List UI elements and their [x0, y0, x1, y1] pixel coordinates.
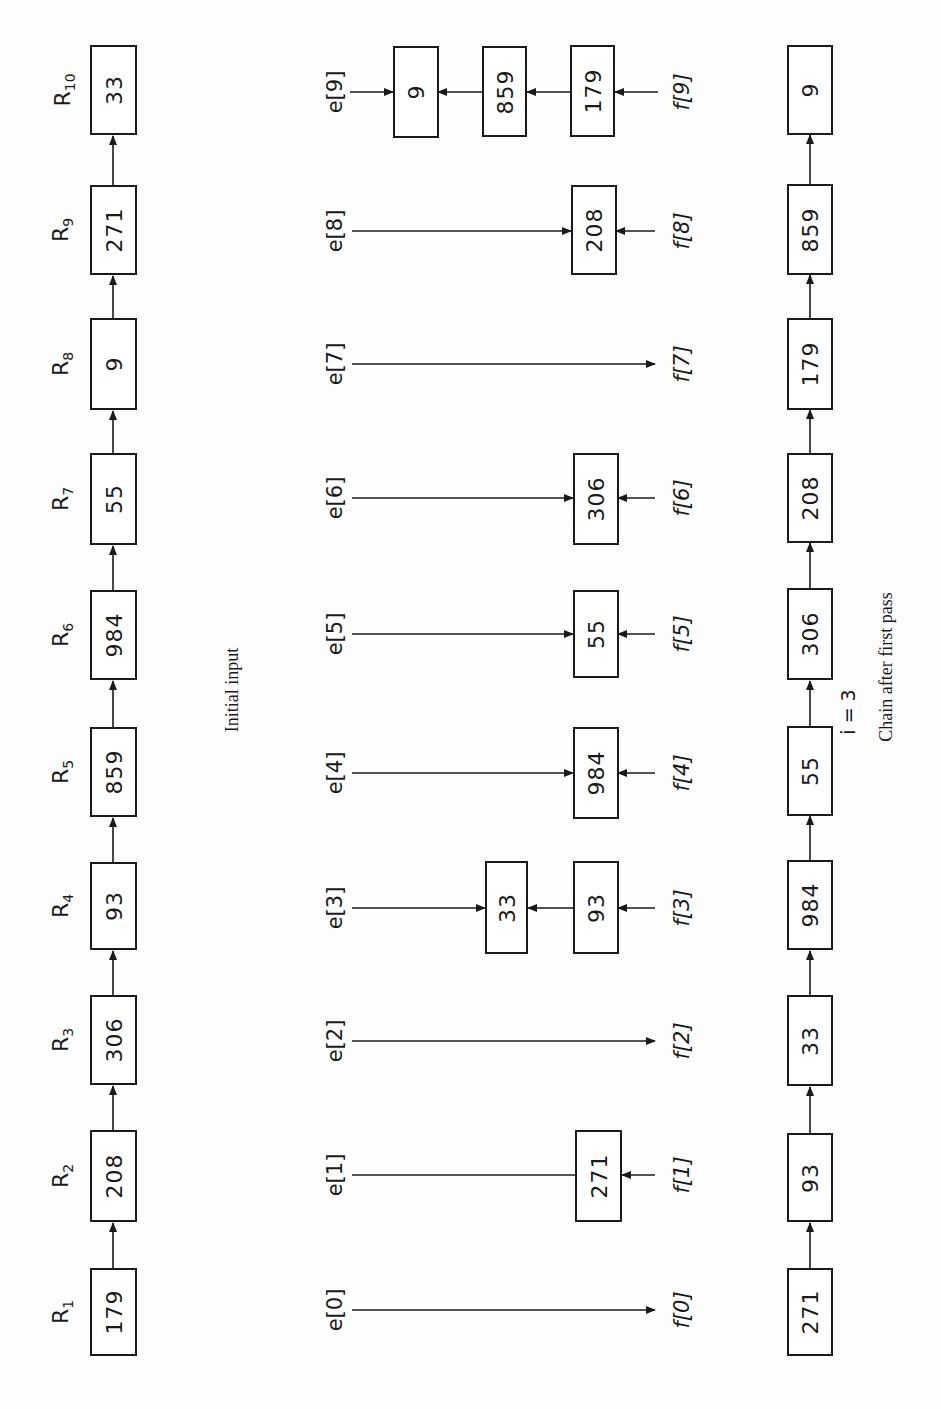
record-value: 306: [101, 1018, 126, 1063]
record-box-r4: 93: [90, 862, 137, 950]
bucket-front-label-8: e[8]: [323, 210, 347, 253]
record-value: 9: [101, 357, 126, 372]
record-value: 33: [101, 75, 126, 105]
record-value: 33: [798, 1026, 823, 1056]
record-value: 859: [798, 207, 823, 252]
record-value: 859: [492, 69, 517, 114]
bucket-rear-label-9: f[9]: [670, 73, 694, 110]
bucket-9-item-0: 9: [393, 46, 439, 138]
record-value: 271: [586, 1154, 611, 1199]
record-value: 271: [101, 208, 126, 253]
pass1-box-1: 93: [787, 1133, 833, 1222]
record-value: 93: [798, 1163, 823, 1193]
bucket-9-item-2: 179: [570, 45, 615, 137]
bucket-8-item-0: 208: [571, 185, 617, 275]
pass1-box-8: 859: [787, 184, 833, 275]
bucket-rear-label-6: f[6]: [670, 479, 694, 516]
record-value: 179: [798, 342, 823, 387]
record-value: 33: [494, 893, 519, 923]
record-label-r7: R7: [48, 487, 76, 511]
pass1-box-3: 984: [787, 860, 833, 950]
bucket-3-item-1: 93: [573, 861, 619, 954]
bucket-5-item-0: 55: [573, 590, 619, 678]
bucket-rear-label-5: f[5]: [670, 615, 694, 652]
bucket-front-label-1: e[1]: [323, 1154, 347, 1197]
record-label-r8: R8: [48, 352, 76, 376]
initial-input-caption: Initial input: [222, 648, 243, 733]
record-value: 208: [582, 208, 607, 253]
bucket-6-item-0: 306: [573, 453, 619, 545]
record-value: 55: [798, 756, 823, 786]
record-label-r6: R6: [48, 623, 76, 647]
record-value: 984: [584, 751, 609, 796]
record-box-r3: 306: [90, 995, 137, 1085]
bucket-front-label-2: e[2]: [323, 1020, 347, 1063]
record-value: 208: [798, 476, 823, 521]
record-value: 208: [101, 1154, 126, 1199]
record-label-r9: R9: [48, 218, 76, 242]
record-value: 93: [101, 891, 126, 921]
record-value: 9: [798, 83, 823, 98]
record-box-r7: 55: [90, 453, 137, 545]
record-label-r10: R10: [50, 73, 78, 106]
record-box-r1: 179: [90, 1268, 137, 1356]
record-label-r2: R2: [48, 1164, 76, 1188]
record-value: 859: [101, 750, 126, 795]
bucket-rear-label-8: f[8]: [670, 212, 694, 249]
record-value: 984: [101, 613, 126, 658]
bucket-9-item-1: 859: [482, 46, 527, 137]
radix-sort-diagram: R1 179 R2 208 R3 306 R4 93 R5 859 R6 984…: [0, 0, 941, 1409]
record-value: 179: [101, 1290, 126, 1335]
pass1-box-0: 271: [787, 1268, 833, 1356]
bucket-front-label-6: e[6]: [323, 477, 347, 520]
pass1-box-7: 179: [787, 318, 833, 410]
pass1-box-9: 9: [787, 45, 833, 135]
bucket-rear-label-3: f[3]: [670, 889, 694, 926]
record-box-r9: 271: [90, 185, 137, 275]
record-box-r6: 984: [90, 590, 137, 680]
pass1-box-4: 55: [787, 726, 833, 816]
after-first-pass-caption: Chain after first pass: [876, 592, 897, 741]
bucket-front-label-9: e[9]: [323, 71, 347, 114]
record-label-r5: R5: [48, 760, 76, 784]
bucket-1-item-0: 271: [575, 1130, 622, 1222]
record-value: 271: [798, 1290, 823, 1335]
bucket-4-item-0: 984: [573, 727, 619, 819]
record-box-r5: 859: [90, 727, 137, 817]
record-value: 179: [580, 69, 605, 114]
record-label-r1: R1: [48, 1300, 76, 1324]
bucket-front-label-7: e[7]: [323, 343, 347, 386]
bucket-rear-label-4: f[4]: [670, 754, 694, 791]
record-box-r2: 208: [90, 1130, 137, 1222]
record-box-r10: 33: [90, 45, 137, 135]
bucket-rear-label-0: f[0]: [670, 1291, 694, 1328]
record-value: 55: [101, 484, 126, 514]
record-value: 55: [584, 619, 609, 649]
bucket-rear-label-2: f[2]: [670, 1022, 694, 1059]
record-label-r4: R4: [48, 894, 76, 918]
bucket-front-label-3: e[3]: [323, 887, 347, 930]
pass1-box-2: 33: [787, 995, 833, 1086]
record-value: 984: [798, 883, 823, 928]
bucket-front-label-4: e[4]: [323, 752, 347, 795]
pass1-box-5: 306: [787, 588, 833, 680]
record-value: 9: [404, 85, 429, 100]
record-label-r3: R3: [48, 1028, 76, 1052]
bucket-front-label-0: e[0]: [323, 1289, 347, 1332]
record-box-r8: 9: [90, 318, 137, 410]
pass-index-annotation: i = 3: [837, 689, 859, 734]
record-value: 306: [798, 612, 823, 657]
pass1-box-6: 208: [787, 453, 833, 543]
bucket-3-item-0: 33: [485, 861, 528, 954]
bucket-front-label-5: e[5]: [323, 613, 347, 656]
bucket-rear-label-7: f[7]: [670, 345, 694, 382]
record-value: 93: [584, 893, 609, 923]
bucket-rear-label-1: f[1]: [670, 1156, 694, 1193]
record-value: 306: [584, 477, 609, 522]
